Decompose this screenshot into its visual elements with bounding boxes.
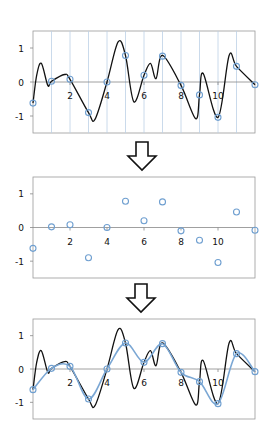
panel-signal: 10-1246810 [15,31,258,133]
x-tick-label: 4 [104,237,110,247]
x-tick-label: 6 [141,378,147,388]
x-tick-label: 6 [141,237,147,247]
x-tick-label: 4 [104,378,110,388]
x-tick-label: 4 [104,91,110,101]
panel-reconstruction: 10-1246810 [15,319,258,419]
y-tick-label: 0 [18,365,24,375]
y-tick-label: 0 [18,223,24,233]
sampling-diagram: 10-124681010-124681010-1246810 [0,0,273,429]
y-tick-label: -1 [15,112,24,122]
x-tick-label: 2 [67,237,73,247]
x-tick-label: 6 [141,91,147,101]
y-tick-label: 1 [18,189,24,199]
y-tick-label: 1 [18,331,24,341]
x-tick-label: 10 [212,237,224,247]
x-tick-label: 8 [178,378,184,388]
y-tick-label: 0 [18,78,24,88]
y-tick-label: -1 [15,257,24,267]
y-tick-label: -1 [15,398,24,408]
arrow-2-down-arrow-icon [127,284,155,312]
x-tick-label: 8 [178,237,184,247]
x-tick-label: 2 [67,378,73,388]
y-tick-label: 1 [18,44,24,54]
x-tick-label: 2 [67,91,73,101]
panel-samples: 10-1246810 [15,177,258,278]
x-tick-label: 8 [178,91,184,101]
arrow-1-down-arrow-icon [128,142,156,170]
